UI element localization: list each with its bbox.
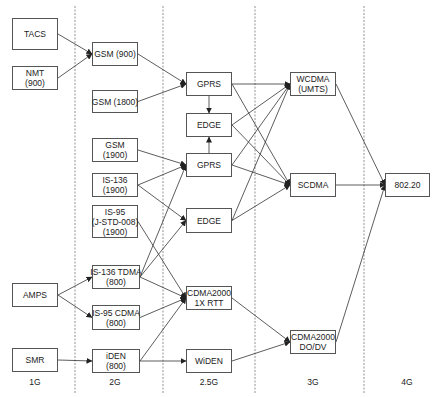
node-label: (UMTS): [298, 84, 328, 94]
node-label: AMPS: [23, 290, 47, 300]
node-label: (800): [106, 318, 126, 328]
edge-gsm1900-to-gprs2: [138, 150, 186, 165]
node-is95cdma: IS-95 CDMA(800): [92, 305, 140, 330]
node-n80220: 802.20: [385, 173, 430, 197]
node-label: GSM (1800): [92, 97, 138, 107]
node-iden: iDEN(800): [92, 349, 140, 373]
node-nmt: NMT(900): [12, 66, 58, 90]
node-label: CDMA2000: [187, 288, 231, 298]
edge-tacs-to-gsm900: [58, 34, 92, 54]
node-wcdma: WCDMA(UMTS): [290, 72, 336, 96]
node-gsm1900: GSM(1900): [92, 138, 138, 162]
node-label: iDEN: [106, 351, 126, 361]
node-label: (900): [25, 78, 45, 88]
edge-cdmadodv-to-n80220: [336, 185, 385, 342]
node-label: DO/DV: [300, 342, 327, 352]
edge-gprs2-to-scdma: [232, 165, 290, 185]
edge-is95_1900-to-cdma1x: [138, 222, 186, 299]
node-label: GSM: [105, 140, 124, 150]
node-label: (1900): [103, 227, 128, 237]
edges-layer: [0, 0, 437, 397]
edge-smr-to-iden: [58, 360, 92, 361]
node-widen: WiDEN: [186, 349, 232, 373]
node-label: (800): [106, 277, 126, 287]
node-label: EDGE: [197, 120, 221, 130]
generation-label-2_5g: 2.5G: [189, 377, 229, 387]
generation-label-4g: 4G: [387, 377, 427, 387]
node-label: (1900): [103, 150, 128, 160]
node-label: TACS: [24, 29, 46, 39]
node-label: IS-136 TDMA: [90, 267, 141, 277]
node-label: GPRS: [197, 160, 221, 170]
node-label: 1X RTT: [194, 298, 223, 308]
node-cdmadodv: CDMA2000DO/DV: [290, 330, 336, 354]
edge-gsm900-to-gprs1: [138, 54, 186, 84]
edge-cdma1x-to-cdmadodv: [232, 298, 290, 342]
node-gprs2: GPRS: [186, 153, 232, 177]
node-is136_1900: IS-136(1900): [92, 173, 138, 197]
node-cdma1x: CDMA20001X RTT: [186, 286, 232, 310]
node-label: (J-STD-008): [92, 217, 139, 227]
node-label: IS-95 CDMA: [92, 308, 140, 318]
generation-label-2g: 2G: [95, 377, 135, 387]
edge-is136_1900-to-edge2: [138, 185, 186, 221]
node-is136tdma: IS-136 TDMA(800): [92, 265, 140, 289]
node-label: WCDMA: [296, 74, 329, 84]
edge-gsm1800-to-gprs1: [138, 84, 186, 102]
node-edge2: EDGE: [186, 208, 232, 233]
generation-label-3g: 3G: [293, 377, 333, 387]
node-gsm1800: GSM (1800): [92, 90, 138, 113]
node-amps: AMPS: [12, 283, 58, 307]
edge-widen-to-cdmadodv: [232, 342, 290, 361]
node-scdma: SCDMA: [290, 173, 336, 197]
node-label: NMT: [26, 68, 44, 78]
node-label: 802.20: [395, 180, 421, 190]
node-edge1: EDGE: [186, 113, 232, 137]
node-gprs1: GPRS: [186, 72, 232, 96]
node-label: EDGE: [197, 216, 221, 226]
node-is95_1900: IS-95(J-STD-008)(1900): [92, 205, 138, 238]
node-label: SCDMA: [298, 180, 329, 190]
node-label: CDMA2000: [291, 332, 335, 342]
generation-label-1g: 1G: [15, 377, 55, 387]
node-label: IS-95: [105, 207, 125, 217]
node-tacs: TACS: [12, 18, 58, 50]
edge-edge2-to-scdma: [232, 185, 290, 221]
network-evolution-diagram: TACSNMT(900)AMPSSMRGSM (900)GSM (1800)GS…: [0, 0, 437, 397]
node-label: GSM (900): [94, 49, 136, 59]
node-smr: SMR: [12, 348, 58, 372]
node-label: GPRS: [197, 79, 221, 89]
node-label: SMR: [26, 355, 45, 365]
node-label: IS-136: [102, 175, 127, 185]
node-gsm900: GSM (900): [92, 42, 138, 66]
node-label: (800): [106, 361, 126, 371]
node-label: (1900): [103, 185, 128, 195]
edge-wcdma-to-n80220: [336, 84, 385, 185]
node-label: WiDEN: [195, 356, 223, 366]
